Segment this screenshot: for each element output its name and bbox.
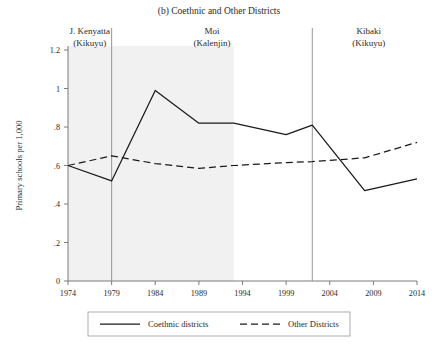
period-ethnicity-label: (Kikuyu) bbox=[352, 38, 385, 48]
y-tick-label: 1.2 bbox=[50, 46, 60, 55]
period-ethnicity-label: (Kikuyu) bbox=[73, 38, 106, 48]
x-tick-label: 1999 bbox=[278, 289, 294, 298]
plot-shading bbox=[68, 46, 234, 281]
x-tick-label: 2014 bbox=[409, 289, 425, 298]
y-tick-label: 0 bbox=[56, 277, 60, 286]
y-tick-label: 1 bbox=[56, 85, 60, 94]
x-tick-label: 1979 bbox=[103, 289, 119, 298]
chart-title: (b) Coethnic and Other Districts bbox=[158, 6, 281, 17]
y-tick-label: .6 bbox=[54, 162, 60, 171]
x-tick-label: 1974 bbox=[60, 289, 76, 298]
period-name-label: Kibaki bbox=[356, 26, 381, 36]
period-name-label: J. Kenyatta bbox=[70, 26, 111, 36]
y-tick-label: .4 bbox=[54, 200, 60, 209]
x-tick-label: 1989 bbox=[191, 289, 207, 298]
chart-figure: 0.2.4.6.811.2 19741979198419891994199920… bbox=[0, 0, 438, 347]
legend-label-coethnic: Coethnic districts bbox=[148, 319, 209, 329]
x-tick-label: 1994 bbox=[234, 289, 250, 298]
y-tick-label: .8 bbox=[54, 123, 60, 132]
legend: Coethnic districts Other Districts bbox=[88, 312, 350, 336]
period-name-label: Moi bbox=[204, 26, 220, 36]
x-tick-label: 2009 bbox=[365, 289, 381, 298]
legend-label-other: Other Districts bbox=[288, 319, 339, 329]
y-tick-label: .2 bbox=[54, 239, 60, 248]
x-tick-label: 2004 bbox=[322, 289, 338, 298]
shaded-span-kenyatta-moi bbox=[68, 46, 234, 281]
x-tick-label: 1984 bbox=[147, 289, 163, 298]
period-ethnicity-label: (Kalenjin) bbox=[193, 38, 230, 48]
y-axis-label: Primary schools per 1,000 bbox=[14, 120, 24, 210]
